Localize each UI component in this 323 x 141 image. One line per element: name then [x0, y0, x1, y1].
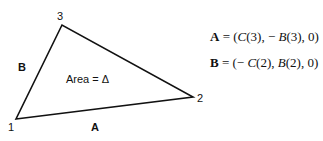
equation-b-lhs: B [210, 55, 219, 70]
equation-b-rest1: (2), [256, 55, 278, 70]
vertex-label-2: 2 [197, 92, 203, 104]
equation-a-lhs: A [210, 29, 219, 44]
equation-b: B = (− C(2), B(2), 0) [210, 55, 318, 71]
equation-b-rest2: (2), 0) [286, 55, 319, 70]
equation-b-b: B [278, 55, 286, 70]
area-label: Area = Δ [66, 73, 110, 85]
equation-a-eq: = ( [219, 29, 237, 44]
equation-b-eq: = (− [219, 55, 248, 70]
edge-label-b: B [18, 61, 26, 73]
equation-b-c: C [247, 55, 256, 70]
equation-a-c: C [238, 29, 247, 44]
equation-a-rest1: (3), − [246, 29, 278, 44]
edge-label-a: A [91, 121, 99, 133]
vertex-label-1: 1 [8, 121, 14, 133]
triangle-shape [16, 25, 193, 119]
equation-a-rest2: (3), 0) [286, 29, 319, 44]
vertex-label-3: 3 [57, 10, 63, 22]
equation-a: A = (C(3), − B(3), 0) [210, 29, 319, 45]
